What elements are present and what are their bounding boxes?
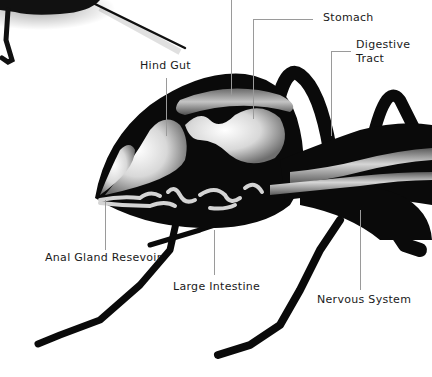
label-stomach: Stomach	[323, 11, 374, 25]
label-digestive-tract: Digestive Tract	[356, 38, 410, 66]
ant-anatomy-diagram: Stomach Digestive Tract Hind Gut Anal Gl…	[0, 0, 432, 377]
label-anal-gland-reservoir: Anal Gland Resevoir	[45, 251, 162, 265]
label-nervous-system: Nervous System	[317, 293, 411, 307]
label-hind-gut: Hind Gut	[140, 59, 191, 73]
leader-line-nervous-system	[360, 210, 361, 290]
background-ant-head	[0, 0, 185, 62]
leader-line-anal-gland	[105, 200, 106, 250]
leader-line-hind-gut	[166, 78, 167, 136]
leader-line-digestive-vertical	[331, 51, 332, 136]
leader-line-large-intestine	[214, 230, 215, 275]
leader-line-digestive-horizontal	[331, 51, 351, 52]
label-large-intestine: Large Intestine	[173, 280, 260, 294]
leader-line-stomach-horizontal	[253, 19, 313, 20]
leader-line-stomach-vertical	[253, 19, 254, 119]
leader-line-top-left	[231, 0, 232, 95]
